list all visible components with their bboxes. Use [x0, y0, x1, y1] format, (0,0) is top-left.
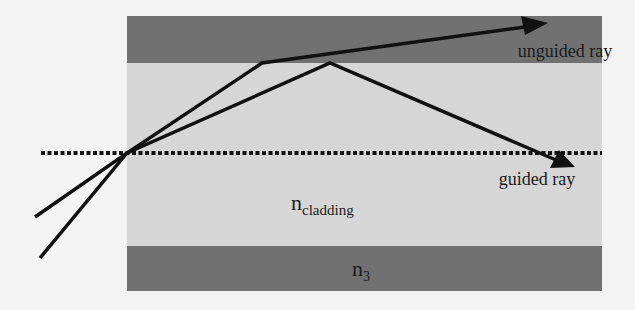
unguided-ray-label: unguided ray	[518, 41, 612, 61]
substrate-index-symbol: n	[352, 256, 363, 281]
core-index-symbol: n	[291, 190, 302, 215]
waveguide-diagram: unguided ray guided ray ncladding n3	[0, 0, 635, 310]
core-index-subscript: cladding	[302, 202, 354, 218]
guided-ray-label: guided ray	[499, 169, 575, 189]
substrate-index-subscript: 3	[363, 269, 370, 284]
